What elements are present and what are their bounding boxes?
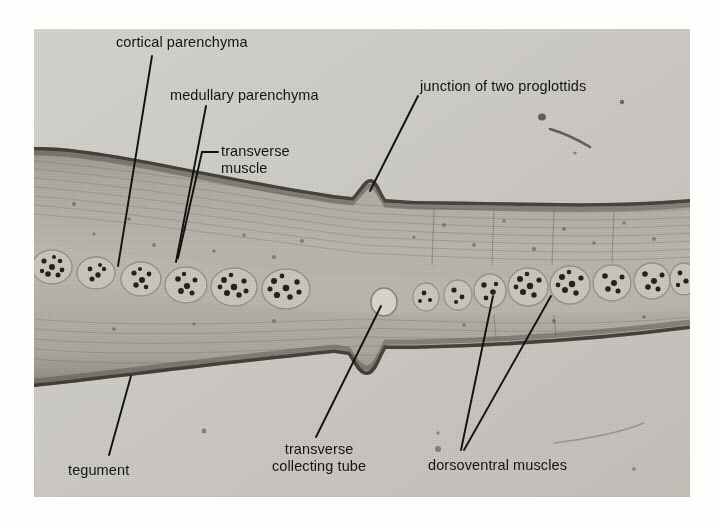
label-cortical-parenchyma: cortical parenchyma [116,34,248,51]
label-transverse-muscle-line2: muscle [221,160,268,176]
figure-root: cortical parenchyma medullary parenchyma… [0,0,714,527]
specimen-illustration [34,29,690,497]
label-junction-proglottids: junction of two proglottids [420,78,586,95]
label-transverse-muscle: transversemuscle [221,143,290,177]
label-collecting-tube-line2: collecting tube [272,458,366,474]
label-transverse-collecting-tube: transversecollecting tube [272,441,366,475]
transverse-collecting-tube [371,288,397,316]
label-dorsoventral-muscles: dorsoventral muscles [428,457,567,474]
micrograph-photo [34,29,690,497]
label-medullary-parenchyma: medullary parenchyma [170,87,319,104]
label-collecting-tube-line1: transverse [285,441,354,457]
label-transverse-muscle-line1: transverse [221,143,290,159]
label-tegument: tegument [68,462,129,479]
